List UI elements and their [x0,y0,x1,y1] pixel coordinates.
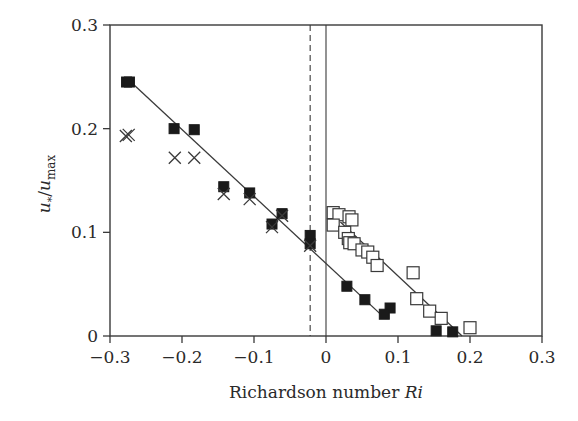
filled-square-marker [305,239,315,249]
open-square-marker [411,293,423,305]
x-tick-label: −0.3 [89,347,130,367]
reference-lines [310,25,326,336]
filled-square-marker [342,281,352,291]
y-tick-label: 0.3 [71,15,98,35]
y-tick-label: 0.2 [71,119,98,139]
x-tick-label: −0.1 [233,347,274,367]
x-axis-title: Richardson number Ri [229,382,423,402]
x-tick-label: −0.2 [161,347,202,367]
filled-square-marker [124,77,134,87]
y-tick-label: 0.1 [71,222,98,242]
x-axis-ticks: −0.3−0.2−0.100.10.20.3 [89,336,555,367]
filled-square-marker [277,209,287,219]
open-square-marker [407,267,419,279]
open-square-marker [346,214,358,226]
filled-square-marker [431,326,441,336]
data-markers [120,77,476,337]
open-square-marker [424,305,436,317]
x-tick-label: 0.1 [384,347,411,367]
filled-square-marker [360,295,370,305]
x-tick-label: 0.3 [528,347,555,367]
x-tick-label: 0 [321,347,332,367]
filled-square-marker [448,327,458,337]
y-axis-title: u*/umax [34,155,58,214]
open-square-marker [327,219,339,231]
y-axis-ticks: 00.10.20.3 [71,15,110,346]
y-tick-label: 0 [87,326,98,346]
filled-square-marker [169,124,179,134]
cross-marker [188,152,200,164]
filled-square-marker [189,125,199,135]
cross-marker [169,152,181,164]
open-square-marker [371,260,383,272]
svg-text:u*/umax: u*/umax [34,155,58,214]
scatter-chart: −0.3−0.2−0.100.10.20.3 00.10.20.3 Richar… [0,0,578,421]
open-square-marker [435,312,447,324]
x-tick-label: 0.2 [456,347,483,367]
open-square-marker [464,322,476,334]
filled-square-marker [379,309,389,319]
